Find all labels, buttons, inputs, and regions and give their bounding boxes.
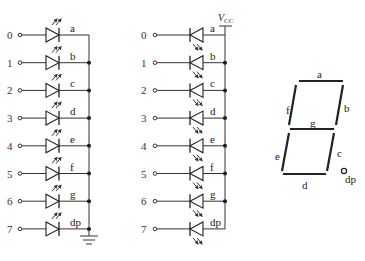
input-label: 0 xyxy=(141,29,147,41)
segment-name: dp xyxy=(210,216,222,228)
input-label: 4 xyxy=(7,140,13,152)
segment-f xyxy=(289,85,296,125)
input-label: 5 xyxy=(7,168,13,180)
led-row: 2c xyxy=(7,74,91,97)
segment-name: c xyxy=(70,77,75,89)
input-label: 1 xyxy=(7,57,13,69)
segment-name: f xyxy=(210,161,214,173)
led-diode-icon xyxy=(190,28,203,42)
segment-name: g xyxy=(210,188,216,200)
led-row: 6g xyxy=(141,188,227,216)
input-label: 4 xyxy=(141,140,147,152)
input-label: 6 xyxy=(141,195,147,207)
led-row: 2c xyxy=(141,77,227,105)
led-diode-icon xyxy=(46,139,59,153)
segment-c xyxy=(327,133,334,171)
common-anode-circuit: 0a1b2c3d4e5f6g7dp xyxy=(141,22,227,244)
input-label: 0 xyxy=(7,29,13,41)
ground-symbol xyxy=(80,236,98,244)
input-terminal xyxy=(153,61,157,65)
segment-name: d xyxy=(210,105,216,117)
input-terminal xyxy=(153,172,157,176)
segment-name: a xyxy=(210,22,215,34)
input-terminal xyxy=(153,227,157,231)
segment-b xyxy=(336,85,343,125)
segment-name: b xyxy=(210,50,216,62)
led-diode-icon xyxy=(190,139,203,153)
segment-label-c: c xyxy=(337,147,342,159)
seven-segment-diagram: 0a1b2c3d4e5f6g7dp 0a1b2c3d4e5f6g7dp VCC … xyxy=(0,0,365,261)
led-row: 0a xyxy=(141,22,225,50)
input-terminal xyxy=(18,172,22,176)
input-terminal xyxy=(153,144,157,148)
led-diode-icon xyxy=(46,56,59,70)
segment-name: d xyxy=(70,105,76,117)
segment-label-dp: dp xyxy=(345,173,357,185)
input-terminal xyxy=(18,199,22,203)
led-diode-icon xyxy=(190,194,203,208)
segment-name: e xyxy=(210,133,215,145)
led-row: 4e xyxy=(7,130,91,153)
input-label: 5 xyxy=(141,168,147,180)
led-row: 6g xyxy=(7,185,91,208)
vcc-label: VCC xyxy=(218,12,234,25)
input-terminal xyxy=(18,144,22,148)
segment-name: e xyxy=(70,133,75,145)
input-label: 7 xyxy=(7,223,13,235)
led-diode-icon xyxy=(46,167,59,181)
segment-label-b: b xyxy=(344,102,350,114)
input-terminal xyxy=(153,116,157,120)
input-label: 2 xyxy=(141,84,147,96)
segment-name: c xyxy=(210,77,215,89)
led-row: 5f xyxy=(141,161,227,189)
led-diode-icon xyxy=(190,56,203,70)
led-row: 3d xyxy=(7,102,91,125)
segment-label-f: f xyxy=(286,104,290,116)
common-cathode-circuit: 0a1b2c3d4e5f6g7dp xyxy=(7,19,91,236)
led-diode-icon xyxy=(46,83,59,97)
led-diode-icon xyxy=(190,83,203,97)
led-row: 1b xyxy=(7,47,91,70)
input-terminal xyxy=(18,116,22,120)
input-label: 1 xyxy=(141,57,147,69)
input-terminal xyxy=(18,61,22,65)
led-diode-icon xyxy=(46,222,59,236)
input-terminal xyxy=(153,89,157,93)
led-row: 7dp xyxy=(7,213,91,236)
input-terminal xyxy=(18,33,22,37)
led-row: 5f xyxy=(7,158,91,181)
led-row: 4e xyxy=(141,133,227,161)
led-diode-icon xyxy=(46,28,59,42)
input-label: 2 xyxy=(7,84,13,96)
led-row: 1b xyxy=(141,50,227,78)
segment-name: dp xyxy=(70,216,82,228)
input-terminal xyxy=(153,33,157,37)
led-diode-icon xyxy=(46,194,59,208)
led-diode-icon xyxy=(190,167,203,181)
led-diode-icon xyxy=(190,222,203,236)
led-diode-icon xyxy=(46,111,59,125)
input-label: 3 xyxy=(7,112,13,124)
seven-segment-display: a b c d e f g dp xyxy=(275,68,357,191)
segment-name: a xyxy=(70,22,75,34)
segment-name: f xyxy=(70,161,74,173)
segment-label-a: a xyxy=(317,68,322,80)
input-terminal xyxy=(18,227,22,231)
led-row: 0a xyxy=(7,19,89,42)
segment-label-e: e xyxy=(275,150,280,162)
led-row: 3d xyxy=(141,105,227,133)
segment-e xyxy=(282,133,289,171)
input-terminal xyxy=(153,199,157,203)
input-label: 6 xyxy=(7,195,13,207)
segment-label-d: d xyxy=(302,179,308,191)
input-terminal xyxy=(18,89,22,93)
input-label: 7 xyxy=(141,223,147,235)
segment-name: b xyxy=(70,50,76,62)
segment-name: g xyxy=(70,188,76,200)
led-row: 7dp xyxy=(141,216,225,244)
segment-label-g: g xyxy=(310,117,316,129)
input-label: 3 xyxy=(141,112,147,124)
led-diode-icon xyxy=(190,111,203,125)
